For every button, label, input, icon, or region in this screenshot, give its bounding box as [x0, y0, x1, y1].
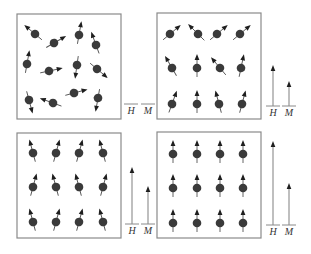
arrowhead-icon: [287, 183, 292, 189]
spin-arrow-icon: [95, 207, 109, 231]
atom-dot: [29, 28, 41, 40]
atom-dot: [93, 93, 103, 103]
atom-dot: [169, 219, 178, 228]
spin-arrow-icon: [39, 64, 63, 77]
atom-dot: [74, 182, 85, 193]
atom-dot: [214, 62, 226, 74]
magnetization-M-arrow: M: [282, 183, 296, 237]
spin-arrow-icon: [25, 207, 39, 231]
spin-arrow-icon: [95, 138, 109, 162]
atom-dot: [193, 219, 202, 228]
atom-dot: [193, 64, 202, 73]
spin-arrow-icon: [87, 30, 103, 55]
spin-arrow-icon: [48, 172, 62, 196]
arrowhead-icon: [271, 141, 276, 147]
spin-arrow-icon: [216, 209, 225, 232]
arrowhead-icon: [130, 167, 135, 173]
atom-dot: [169, 150, 178, 159]
field-H-arrow: H: [266, 141, 280, 237]
atom-dot: [239, 219, 248, 228]
magnetization-M-arrow: M: [282, 81, 296, 118]
spin-arrow-icon: [193, 54, 202, 77]
spin-arrow-icon: [73, 20, 85, 44]
atom-dot: [51, 148, 62, 159]
atom-dot: [193, 150, 202, 159]
atom-dot: [216, 184, 225, 193]
spin-arrow-icon: [230, 22, 253, 43]
atom-dot: [239, 150, 248, 159]
spin-arrow-icon: [169, 209, 178, 232]
magnetization-diagram: HMHMHMHM: [0, 0, 311, 254]
atom-dot: [236, 63, 246, 73]
label-H: H: [126, 105, 135, 116]
spin-arrow-icon: [208, 55, 229, 78]
atom-dot: [44, 66, 54, 76]
atom-dot: [28, 148, 39, 159]
atom-dot: [98, 148, 109, 159]
atom-dot: [74, 30, 84, 40]
atom-dot: [216, 150, 225, 159]
atom-dot: [90, 39, 101, 50]
atom-dot: [22, 59, 32, 69]
atom-dot: [28, 217, 39, 228]
atom-dot: [91, 63, 103, 75]
label-H: H: [268, 226, 277, 237]
spin-arrow-icon: [97, 172, 111, 196]
spin-arrow-icon: [73, 207, 87, 231]
atom-dot: [51, 217, 62, 228]
label-M: M: [284, 107, 294, 118]
spin-arrow-icon: [239, 174, 248, 197]
arrowhead-icon: [287, 81, 292, 87]
magnetization-M-arrow: M: [141, 104, 155, 116]
atom-dot: [193, 100, 202, 109]
spin-arrow-icon: [207, 22, 230, 43]
atom-dot: [239, 184, 248, 193]
atom-dot: [48, 37, 60, 49]
atom-dot: [216, 219, 225, 228]
label-M: M: [143, 105, 153, 116]
atom-dot: [164, 28, 176, 40]
atom-dot: [166, 62, 178, 74]
panel-3: HM: [17, 133, 155, 238]
atom-dot: [74, 148, 85, 159]
panel-4: HM: [157, 132, 296, 238]
atom-dot: [74, 217, 85, 228]
spin-arrow-icon: [38, 94, 63, 110]
spin-arrow-icon: [239, 209, 248, 232]
atom-dot: [47, 97, 58, 108]
spin-arrow-icon: [50, 207, 64, 231]
field-H-arrow: H: [125, 167, 139, 236]
spin-arrow-icon: [27, 172, 41, 196]
spin-arrow-icon: [193, 209, 202, 232]
atom-dot: [214, 99, 225, 110]
spin-arrow-icon: [21, 49, 33, 73]
atom-dot: [234, 28, 246, 40]
atom-dot: [98, 182, 109, 193]
spin-arrow-icon: [71, 55, 83, 79]
spin-arrow-icon: [50, 138, 64, 162]
spin-arrow-icon: [236, 89, 250, 113]
atom-dot: [24, 95, 35, 106]
label-M: M: [143, 225, 153, 236]
atom-dot: [211, 28, 223, 40]
label-M: M: [284, 226, 294, 237]
atom-dot: [28, 182, 39, 193]
spin-arrow-icon: [23, 90, 37, 114]
spin-arrow-icon: [239, 140, 248, 163]
spin-arrow-icon: [160, 22, 183, 43]
spin-arrow-icon: [193, 90, 202, 113]
arrowhead-icon: [146, 186, 151, 192]
spin-arrow-icon: [73, 138, 87, 162]
spin-arrow-icon: [25, 138, 39, 162]
spin-arrow-icon: [235, 53, 248, 77]
atom-dot: [69, 88, 80, 99]
spin-arrow-icon: [193, 140, 202, 163]
spin-arrow-icon: [71, 172, 85, 196]
atom-dot: [169, 184, 178, 193]
atom-dot: [166, 98, 177, 109]
spin-arrow-icon: [216, 174, 225, 197]
magnetization-M-arrow: M: [141, 186, 155, 236]
atom-dot: [193, 184, 202, 193]
arrowhead-icon: [271, 65, 276, 71]
atom-dot: [98, 217, 109, 228]
